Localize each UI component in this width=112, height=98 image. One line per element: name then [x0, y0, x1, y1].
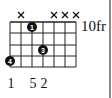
mute-icon-string-2 [18, 12, 24, 18]
interval-label-string-4: 2 [38, 76, 50, 92]
interval-label-string-1: 1 [5, 76, 17, 92]
finger-number: 4 [8, 58, 12, 65]
mute-icon-string-6 [62, 12, 68, 18]
chord-diagram: 1 3 4 10fr 1 5 2 [0, 0, 112, 98]
finger-number: 3 [41, 47, 45, 54]
finger-number: 1 [30, 24, 34, 31]
mute-icon-string-5 [51, 12, 57, 18]
fret-position-label: 10fr [81, 18, 106, 35]
right-border [109, 0, 111, 98]
mute-icon-string-7 [73, 12, 79, 18]
mute-markers [18, 12, 79, 18]
